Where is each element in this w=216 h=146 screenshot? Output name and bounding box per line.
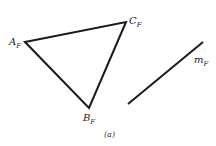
diagram-figure — [0, 0, 216, 146]
triangle-abc — [25, 22, 126, 108]
vertex-label-c: CF — [129, 16, 142, 29]
figure-caption: (a) — [104, 130, 115, 139]
vertex-label-b: BF — [83, 113, 95, 126]
diagram-canvas: AF CF BF mF (a) — [0, 0, 216, 146]
line-m — [128, 42, 203, 104]
vertex-label-a: AF — [9, 37, 21, 50]
line-label-m: mF — [194, 55, 208, 68]
